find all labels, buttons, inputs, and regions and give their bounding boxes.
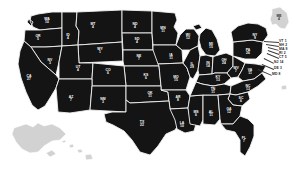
state-shape-AL[interactable] <box>203 95 220 125</box>
state-shape-NY[interactable] <box>231 23 268 42</box>
us-map-svg <box>0 0 301 189</box>
state-shape-offshore <box>281 85 287 90</box>
state-shape-OR[interactable] <box>24 28 62 47</box>
state-shape-MS[interactable] <box>188 95 203 126</box>
state-shape-MT[interactable] <box>76 10 122 45</box>
state-shape-HI <box>62 140 93 160</box>
state-shape-KS[interactable] <box>124 66 161 86</box>
state-shape-MO[interactable] <box>158 63 190 90</box>
state-shape-MN[interactable] <box>152 11 178 45</box>
state-shape-ND[interactable] <box>122 10 152 33</box>
state-shape-CO[interactable] <box>92 63 126 86</box>
state-shape-SD[interactable] <box>122 33 153 50</box>
state-shape-WY[interactable] <box>78 42 123 63</box>
state-shape-ME <box>270 7 289 29</box>
us-apportionment-map: WA10OR5ID4MT4WY1ND4SD4NE7KS6MN11IA11WI12… <box>0 0 301 189</box>
state-shape-WA[interactable] <box>27 12 62 30</box>
state-shape-PA[interactable] <box>233 40 263 59</box>
state-shape-NM[interactable] <box>90 86 126 112</box>
state-shape-AK <box>12 123 66 157</box>
state-shape-IA[interactable] <box>153 45 183 64</box>
state-shape-IN[interactable] <box>198 55 213 75</box>
state-shape-AZ[interactable] <box>56 79 92 113</box>
